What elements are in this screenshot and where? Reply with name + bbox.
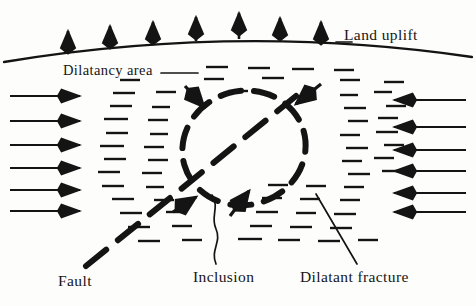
convergence-arrow xyxy=(296,84,321,104)
diagram-svg xyxy=(0,0,476,306)
figure-canvas: Land uplift Dilatancy area Fault Inclusi… xyxy=(0,0,476,306)
label-inclusion: Inclusion xyxy=(193,268,254,286)
label-dilatancy-area: Dilatancy area xyxy=(63,62,153,79)
left-compression-arrow-group xyxy=(10,96,80,211)
label-dilatant-fracture: Dilatant fracture xyxy=(300,268,409,286)
inclusion-leader-wavy-line xyxy=(212,195,218,264)
convergence-arrow xyxy=(173,197,196,212)
right-compression-arrow-group xyxy=(394,100,466,212)
convergence-arrow xyxy=(185,86,204,107)
label-fault: Fault xyxy=(58,272,92,290)
label-land-uplift: Land uplift xyxy=(344,26,418,44)
leader-line-group xyxy=(161,42,357,264)
ground-surface-arc xyxy=(4,41,472,62)
convergence-arrow-group xyxy=(173,84,321,216)
